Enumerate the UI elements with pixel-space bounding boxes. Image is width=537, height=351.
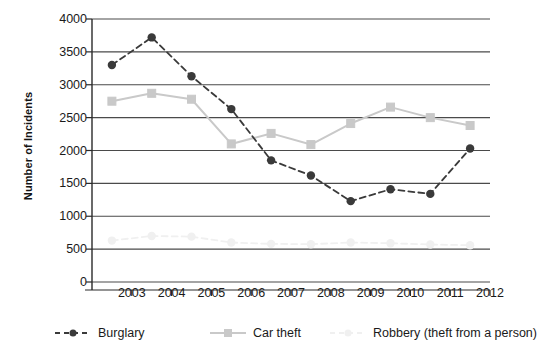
x-tick-label: 2007 xyxy=(277,286,305,300)
legend-swatch-square-icon xyxy=(210,327,246,339)
data-point-marker xyxy=(148,89,156,97)
x-tick-label: 2011 xyxy=(437,286,464,300)
legend-item[interactable]: Robbery (theft from a person) xyxy=(330,324,537,342)
data-point-marker xyxy=(227,105,235,113)
data-point-marker xyxy=(267,240,275,248)
legend-label: Burglary xyxy=(98,326,145,340)
data-point-marker xyxy=(307,240,315,248)
series-car-theft xyxy=(108,89,474,148)
legend-marker xyxy=(345,330,352,337)
data-point-marker xyxy=(466,122,474,130)
data-point-marker xyxy=(267,156,275,164)
legend-label: Robbery (theft from a person) xyxy=(373,326,537,340)
legend-label: Car theft xyxy=(253,326,301,340)
data-point-marker xyxy=(187,72,195,80)
legend-swatch-circle-icon xyxy=(55,327,91,339)
data-point-marker xyxy=(108,97,116,105)
x-tick-label: 2012 xyxy=(476,286,504,300)
data-point-marker xyxy=(148,232,156,240)
data-point-marker xyxy=(267,129,275,137)
data-point-marker xyxy=(387,103,395,111)
x-tick-label: 2003 xyxy=(118,286,146,300)
series-burglary xyxy=(108,33,475,205)
series-line xyxy=(112,236,470,245)
data-point-marker xyxy=(188,95,196,103)
data-point-marker xyxy=(307,141,315,149)
data-point-marker xyxy=(426,190,434,198)
data-point-marker xyxy=(426,240,434,248)
data-point-marker xyxy=(466,241,474,249)
data-point-marker xyxy=(227,238,235,246)
data-point-marker xyxy=(426,114,434,122)
legend-marker xyxy=(224,329,232,337)
legend-item[interactable]: Burglary xyxy=(55,324,145,342)
data-point-marker xyxy=(307,171,315,179)
series-line xyxy=(112,93,470,144)
data-point-marker xyxy=(466,144,474,152)
data-point-marker xyxy=(347,120,355,128)
x-tick-label: 2005 xyxy=(197,286,225,300)
x-tick-label: 2004 xyxy=(158,286,186,300)
data-point-marker xyxy=(227,140,235,148)
chart-legend: BurglaryCar theftRobbery (theft from a p… xyxy=(0,320,526,348)
legend-item[interactable]: Car theft xyxy=(210,324,301,342)
data-point-marker xyxy=(108,236,116,244)
data-point-marker xyxy=(347,197,355,205)
data-point-marker xyxy=(386,185,394,193)
series-robbery-theft-from-a-person xyxy=(108,232,475,250)
series-line xyxy=(112,37,470,201)
x-tick-label: 2008 xyxy=(317,286,345,300)
data-point-marker xyxy=(108,61,116,69)
data-point-marker xyxy=(187,232,195,240)
x-tick-label: 2006 xyxy=(237,286,265,300)
data-point-marker xyxy=(347,238,355,246)
legend-marker xyxy=(70,330,77,337)
data-point-marker xyxy=(148,33,156,41)
x-tick-label: 2009 xyxy=(357,286,385,300)
data-point-marker xyxy=(386,239,394,247)
legend-swatch-circle-icon xyxy=(330,327,366,339)
x-tick-label: 2010 xyxy=(396,286,424,300)
